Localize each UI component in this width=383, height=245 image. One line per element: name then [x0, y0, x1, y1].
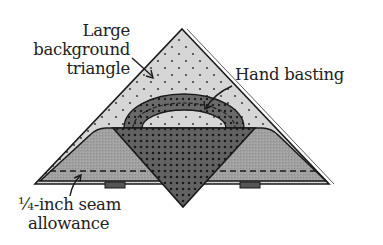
label-line: Large: [20, 21, 130, 40]
label-line: Hand basting: [235, 65, 344, 84]
label-line: triangle: [20, 59, 130, 78]
label-line: background: [20, 40, 130, 59]
label-seam-allowance: ¼-inch seam allowance: [18, 195, 121, 233]
label-background-triangle: Large background triangle: [20, 21, 130, 78]
label-line: ¼-inch seam: [18, 195, 121, 214]
label-hand-basting: Hand basting: [235, 65, 344, 84]
label-line: allowance: [18, 214, 121, 233]
